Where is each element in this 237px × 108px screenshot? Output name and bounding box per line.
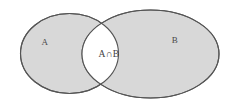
venn-diagram-canvas: A B A∩B: [0, 0, 237, 108]
venn-diagram: A B A∩B: [0, 0, 237, 108]
set-a-label: A: [42, 37, 49, 47]
set-b-label: B: [172, 35, 178, 45]
intersection-label: A∩B: [99, 49, 120, 59]
